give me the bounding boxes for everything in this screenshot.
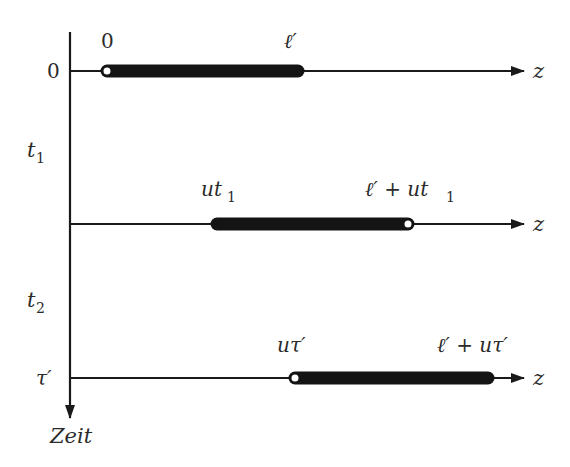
interval-label-t2: t 2	[27, 288, 45, 316]
row-time-zero: z 0 ℓ′	[70, 29, 545, 83]
z-axis-label: z	[532, 366, 545, 390]
z-axis-label: z	[532, 212, 545, 236]
interval-label-t1: t 1	[27, 138, 45, 166]
svg-text:t: t	[27, 138, 36, 162]
svg-text:ℓ′ + ut: ℓ′ + ut	[365, 177, 429, 201]
space-time-diagram: Zeit 0 τ′ t 1 t 2 z 0 ℓ′ z ut 1 ℓ′ + ut …	[0, 0, 570, 467]
rod-right-label: ℓ′ + ut 1	[365, 177, 455, 205]
open-endpoint-marker	[291, 374, 300, 383]
time-tick-tau-prime: τ′	[36, 366, 52, 390]
rod-left-label: uτ′	[277, 333, 306, 357]
rod-right-label: ℓ′	[284, 29, 297, 53]
z-axis-label: z	[532, 59, 545, 83]
time-axis: Zeit 0 τ′ t 1 t 2	[27, 32, 93, 448]
svg-text:t: t	[27, 288, 36, 312]
svg-text:1: 1	[227, 189, 236, 205]
open-endpoint-marker	[404, 220, 413, 229]
row-time-t1: z ut 1 ℓ′ + ut 1	[70, 177, 545, 236]
svg-text:ut: ut	[201, 177, 223, 201]
rod-left-label: ut 1	[201, 177, 236, 205]
rod-left-label: 0	[101, 29, 114, 53]
svg-text:2: 2	[36, 300, 45, 316]
time-tick-zero: 0	[47, 59, 60, 83]
open-endpoint-marker	[103, 67, 112, 76]
row-time-tau-prime: z uτ′ ℓ′ + uτ′	[70, 333, 545, 390]
svg-text:1: 1	[36, 150, 45, 166]
time-axis-label: Zeit	[49, 424, 93, 448]
svg-text:1: 1	[446, 189, 455, 205]
rod-right-label: ℓ′ + uτ′	[437, 333, 508, 357]
